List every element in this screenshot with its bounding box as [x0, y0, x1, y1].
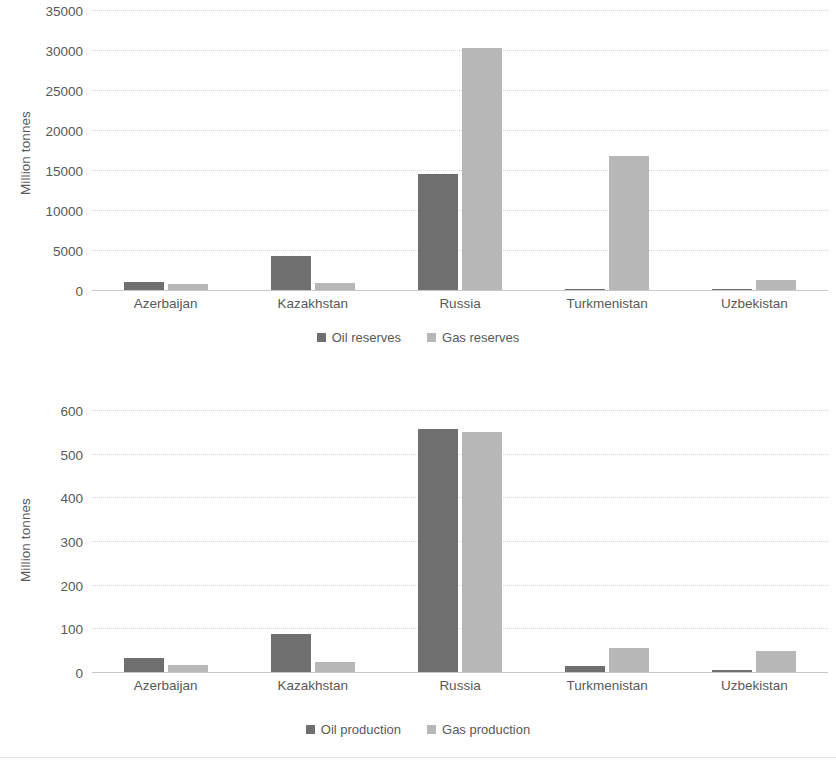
bar-group [386, 10, 533, 290]
bar [315, 283, 355, 290]
bar [124, 282, 164, 290]
bar-groups-reserves [92, 10, 828, 290]
bar-group [239, 10, 386, 290]
y-axis-tick-label: 15000 [45, 164, 83, 179]
y-axis-tick-label: 100 [60, 622, 83, 637]
gridline: 0 [92, 672, 828, 673]
legend-production: Oil productionGas production [0, 722, 836, 737]
gridline: 0 [92, 290, 828, 291]
legend-item[interactable]: Oil production [306, 722, 401, 737]
bar [315, 662, 355, 672]
bar-group [92, 10, 239, 290]
bar [418, 174, 458, 290]
bar [271, 256, 311, 290]
bar-group [681, 410, 828, 672]
legend-item[interactable]: Gas reserves [427, 330, 519, 345]
bar-group [534, 10, 681, 290]
plot-area-reserves: 05000100001500020000250003000035000 [92, 10, 828, 290]
plot-area-production: 0100200300400500600 [92, 410, 828, 672]
x-axis-labels-reserves: AzerbaijanKazakhstanRussiaTurkmenistanUz… [92, 296, 828, 311]
bar-group [681, 10, 828, 290]
bar [712, 289, 752, 290]
x-axis-label: Turkmenistan [534, 296, 681, 311]
bar [418, 429, 458, 672]
bar-group [239, 410, 386, 672]
x-axis-label: Kazakhstan [239, 678, 386, 693]
x-axis-labels-production: AzerbaijanKazakhstanRussiaTurkmenistanUz… [92, 678, 828, 693]
bar [565, 666, 605, 672]
y-axis-tick-label: 300 [60, 535, 83, 550]
legend-label: Oil production [321, 722, 401, 737]
y-axis-tick-label: 20000 [45, 124, 83, 139]
bar [462, 432, 502, 672]
production-chart: Million tonnes 0100200300400500600 Azerb… [0, 382, 836, 764]
bottom-divider [0, 757, 836, 758]
x-axis-label: Uzbekistan [681, 296, 828, 311]
bar-group [92, 410, 239, 672]
bar [609, 648, 649, 672]
y-axis-tick-label: 500 [60, 447, 83, 462]
bar-group [386, 410, 533, 672]
legend-label: Gas reserves [442, 330, 519, 345]
bar [462, 48, 502, 290]
legend-reserves: Oil reservesGas reserves [0, 330, 836, 345]
x-axis-label: Uzbekistan [681, 678, 828, 693]
bar [756, 280, 796, 290]
bar [168, 665, 208, 672]
y-axis-tick-label: 600 [60, 404, 83, 419]
y-axis-tick-label: 0 [75, 666, 83, 681]
bar-group [534, 410, 681, 672]
legend-swatch-icon [317, 333, 326, 342]
y-axis-tick-label: 5000 [53, 244, 83, 259]
y-axis-title-reserves: Million tonnes [18, 111, 33, 195]
legend-item[interactable]: Oil reserves [317, 330, 401, 345]
bar [712, 670, 752, 672]
x-axis-label: Russia [386, 678, 533, 693]
x-axis-label: Russia [386, 296, 533, 311]
legend-swatch-icon [427, 725, 436, 734]
bar [756, 651, 796, 672]
bar [168, 284, 208, 290]
y-axis-tick-label: 30000 [45, 44, 83, 59]
y-axis-tick-label: 400 [60, 491, 83, 506]
bar-groups-production [92, 410, 828, 672]
reserves-chart: Million tonnes 0500010000150002000025000… [0, 0, 836, 372]
legend-label: Gas production [442, 722, 530, 737]
legend-item[interactable]: Gas production [427, 722, 530, 737]
y-axis-title-production: Million tonnes [18, 498, 33, 582]
legend-swatch-icon [427, 333, 436, 342]
y-axis-tick-label: 35000 [45, 4, 83, 19]
x-axis-label: Turkmenistan [534, 678, 681, 693]
x-axis-label: Kazakhstan [239, 296, 386, 311]
y-axis-tick-label: 10000 [45, 204, 83, 219]
x-axis-label: Azerbaijan [92, 296, 239, 311]
x-axis-label: Azerbaijan [92, 678, 239, 693]
bar [124, 658, 164, 672]
legend-label: Oil reserves [332, 330, 401, 345]
bar [609, 156, 649, 290]
y-axis-tick-label: 200 [60, 578, 83, 593]
bar [565, 289, 605, 290]
legend-swatch-icon [306, 725, 315, 734]
y-axis-tick-label: 25000 [45, 84, 83, 99]
bar [271, 634, 311, 672]
y-axis-tick-label: 0 [75, 284, 83, 299]
